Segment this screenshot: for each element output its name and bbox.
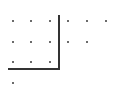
grid-dot <box>12 61 14 63</box>
grid-dot <box>12 82 14 84</box>
grid-dot <box>12 20 14 22</box>
grid-dot <box>30 61 32 63</box>
grid-dot <box>49 41 51 43</box>
grid-dot <box>49 20 51 22</box>
horizontal-boundary-line <box>8 68 60 70</box>
grid-dot <box>86 41 88 43</box>
grid-dot <box>30 20 32 22</box>
grid-dot <box>105 20 107 22</box>
grid-dot <box>67 20 69 22</box>
grid-dot <box>30 41 32 43</box>
grid-dot <box>86 20 88 22</box>
grid-dot <box>49 61 51 63</box>
dot-grid-diagram <box>0 0 114 104</box>
grid-dot <box>67 41 69 43</box>
grid-dot <box>12 41 14 43</box>
vertical-boundary-line <box>58 15 60 70</box>
